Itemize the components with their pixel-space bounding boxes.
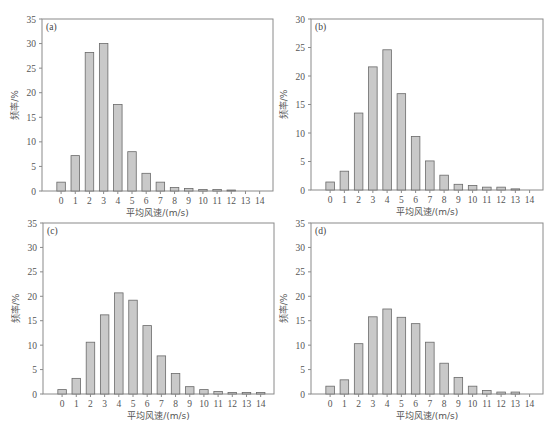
bar — [100, 315, 109, 394]
x-axis-label: 平均风速/(m/s) — [127, 410, 190, 421]
bar — [57, 182, 66, 191]
x-tick-label: 6 — [413, 399, 418, 409]
x-tick-label: 9 — [456, 195, 461, 205]
x-tick-label: 13 — [511, 195, 521, 205]
x-tick-label: 5 — [399, 399, 404, 409]
y-tick-label: 35 — [27, 15, 37, 25]
x-tick-label: 12 — [496, 399, 506, 409]
bar — [71, 156, 80, 191]
x-tick-label: 14 — [525, 399, 535, 409]
y-tick-label: 30 — [296, 15, 306, 25]
chart-panel-c: 0510152025303501234567891011121314平均风速/(… — [10, 219, 274, 422]
bar — [497, 392, 506, 394]
y-tick-label: 30 — [28, 243, 38, 253]
y-tick-label: 20 — [296, 72, 306, 82]
x-tick-label: 4 — [116, 399, 121, 409]
bar — [454, 184, 463, 190]
bar — [72, 378, 81, 394]
x-tick-label: 9 — [186, 196, 191, 206]
y-axis-label: 频率/% — [10, 293, 21, 323]
bar — [411, 324, 420, 394]
bar — [200, 390, 209, 394]
x-tick-label: 3 — [370, 399, 375, 409]
x-tick-label: 11 — [482, 399, 491, 409]
x-tick-label: 8 — [442, 399, 447, 409]
x-tick-label: 5 — [130, 196, 135, 206]
bar — [468, 185, 477, 190]
y-tick-label: 5 — [300, 157, 305, 167]
x-tick-label: 10 — [199, 399, 209, 409]
x-tick-label: 1 — [342, 195, 347, 205]
bar — [340, 380, 349, 394]
x-tick-label: 3 — [101, 196, 106, 206]
y-tick-label: 0 — [31, 187, 36, 197]
panel-label: (a) — [46, 22, 57, 33]
bar — [440, 175, 449, 190]
x-tick-label: 11 — [214, 399, 223, 409]
bar — [397, 94, 406, 190]
y-tick-label: 0 — [32, 390, 37, 400]
bar — [114, 105, 123, 191]
x-tick-label: 13 — [241, 196, 251, 206]
x-tick-label: 8 — [172, 196, 177, 206]
x-tick-label: 6 — [144, 196, 149, 206]
x-tick-label: 1 — [74, 399, 79, 409]
x-tick-label: 2 — [87, 196, 92, 206]
x-tick-label: 13 — [242, 399, 252, 409]
y-tick-label: 15 — [296, 100, 306, 110]
bar — [184, 189, 193, 191]
y-tick-label: 10 — [296, 129, 306, 139]
bar — [171, 373, 180, 394]
bar — [242, 393, 251, 394]
x-tick-label: 12 — [227, 196, 237, 206]
y-tick-label: 20 — [28, 292, 38, 302]
y-tick-label: 5 — [31, 162, 36, 172]
bar — [511, 392, 520, 394]
bar — [440, 363, 449, 394]
x-tick-label: 0 — [328, 399, 333, 409]
x-tick-label: 12 — [228, 399, 238, 409]
y-tick-label: 25 — [296, 43, 306, 53]
bar — [256, 393, 265, 394]
x-tick-label: 11 — [482, 195, 491, 205]
bar — [397, 317, 406, 394]
bar — [85, 52, 94, 191]
y-axis-label: 频率/% — [9, 90, 20, 120]
bar — [213, 190, 222, 191]
bar — [86, 342, 95, 394]
x-tick-label: 2 — [356, 399, 361, 409]
x-tick-label: 5 — [399, 195, 404, 205]
x-tick-label: 2 — [88, 399, 93, 409]
bar — [143, 326, 152, 394]
bar — [58, 390, 67, 394]
y-tick-label: 20 — [296, 292, 306, 302]
bar — [199, 190, 208, 191]
bar — [369, 317, 378, 394]
bar — [354, 113, 363, 190]
y-tick-label: 30 — [27, 39, 37, 49]
bar — [99, 44, 108, 191]
bar — [426, 342, 435, 394]
bar — [228, 393, 237, 394]
y-tick-label: 25 — [296, 267, 306, 277]
x-tick-label: 10 — [468, 195, 478, 205]
bar — [115, 293, 124, 394]
bar — [497, 187, 506, 190]
y-tick-label: 0 — [300, 390, 305, 400]
x-tick-label: 8 — [173, 399, 178, 409]
y-tick-label: 25 — [28, 267, 38, 277]
bar — [454, 377, 463, 394]
bar — [157, 356, 166, 394]
bar — [170, 188, 179, 191]
bar — [142, 173, 151, 191]
x-tick-label: 10 — [468, 399, 478, 409]
bar — [383, 309, 392, 394]
x-tick-label: 14 — [255, 196, 265, 206]
x-tick-label: 0 — [60, 399, 65, 409]
bar — [483, 391, 492, 394]
y-tick-label: 15 — [28, 316, 38, 326]
bar — [156, 182, 165, 191]
bar — [411, 136, 420, 190]
y-tick-label: 5 — [32, 365, 37, 375]
y-tick-label: 0 — [300, 186, 305, 196]
